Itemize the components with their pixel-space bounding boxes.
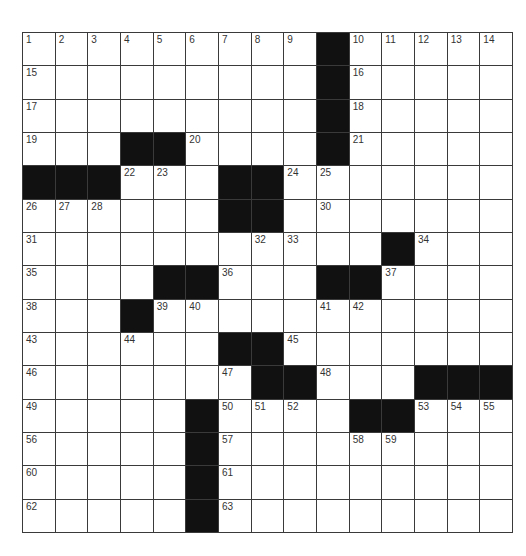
grid-cell[interactable]: 42 [350,300,382,332]
grid-cell[interactable] [56,500,88,532]
grid-cell[interactable]: 55 [480,400,512,432]
grid-cell[interactable] [56,333,88,365]
grid-cell[interactable]: 51 [252,400,284,432]
grid-cell[interactable] [382,200,414,232]
grid-cell[interactable] [219,66,251,98]
grid-cell[interactable] [448,100,480,132]
grid-cell[interactable] [350,366,382,398]
grid-cell[interactable]: 3 [88,33,120,65]
grid-cell[interactable] [56,433,88,465]
grid-cell[interactable] [154,100,186,132]
grid-cell[interactable] [317,466,349,498]
grid-cell[interactable] [154,500,186,532]
grid-cell[interactable] [121,366,153,398]
grid-cell[interactable]: 6 [186,33,218,65]
grid-cell[interactable]: 47 [219,366,251,398]
grid-cell[interactable] [415,200,447,232]
grid-cell[interactable]: 21 [350,133,382,165]
grid-cell[interactable]: 35 [23,266,55,298]
grid-cell[interactable] [154,466,186,498]
grid-cell[interactable] [350,500,382,532]
grid-cell[interactable] [284,100,316,132]
grid-cell[interactable]: 62 [23,500,55,532]
grid-cell[interactable]: 34 [415,233,447,265]
grid-cell[interactable]: 31 [23,233,55,265]
grid-cell[interactable] [480,166,512,198]
grid-cell[interactable] [88,233,120,265]
grid-cell[interactable]: 17 [23,100,55,132]
grid-cell[interactable] [121,100,153,132]
grid-cell[interactable] [382,333,414,365]
grid-cell[interactable] [480,200,512,232]
grid-cell[interactable] [382,66,414,98]
grid-cell[interactable]: 22 [121,166,153,198]
grid-cell[interactable]: 49 [23,400,55,432]
grid-cell[interactable]: 43 [23,333,55,365]
grid-cell[interactable]: 26 [23,200,55,232]
grid-cell[interactable]: 56 [23,433,55,465]
grid-cell[interactable] [382,466,414,498]
grid-cell[interactable] [88,433,120,465]
grid-cell[interactable] [448,66,480,98]
grid-cell[interactable] [88,133,120,165]
grid-cell[interactable]: 12 [415,33,447,65]
grid-cell[interactable] [186,333,218,365]
grid-cell[interactable] [88,300,120,332]
grid-cell[interactable] [415,333,447,365]
grid-cell[interactable] [56,100,88,132]
grid-cell[interactable] [448,433,480,465]
grid-cell[interactable] [219,100,251,132]
grid-cell[interactable] [415,133,447,165]
grid-cell[interactable] [121,400,153,432]
grid-cell[interactable] [154,200,186,232]
grid-cell[interactable] [448,133,480,165]
grid-cell[interactable] [480,266,512,298]
grid-cell[interactable] [350,200,382,232]
grid-cell[interactable] [219,300,251,332]
grid-cell[interactable] [284,433,316,465]
grid-cell[interactable] [448,500,480,532]
grid-cell[interactable] [284,133,316,165]
grid-cell[interactable]: 57 [219,433,251,465]
grid-cell[interactable] [121,66,153,98]
grid-cell[interactable]: 61 [219,466,251,498]
grid-cell[interactable] [480,433,512,465]
grid-cell[interactable] [350,333,382,365]
grid-cell[interactable] [448,466,480,498]
grid-cell[interactable] [448,166,480,198]
grid-cell[interactable] [154,433,186,465]
grid-cell[interactable] [252,133,284,165]
grid-cell[interactable] [480,300,512,332]
grid-cell[interactable]: 58 [350,433,382,465]
grid-cell[interactable]: 10 [350,33,382,65]
grid-cell[interactable]: 14 [480,33,512,65]
grid-cell[interactable]: 20 [186,133,218,165]
grid-cell[interactable] [317,233,349,265]
grid-cell[interactable]: 18 [350,100,382,132]
grid-cell[interactable] [382,166,414,198]
grid-cell[interactable]: 30 [317,200,349,232]
grid-cell[interactable]: 52 [284,400,316,432]
grid-cell[interactable]: 41 [317,300,349,332]
grid-cell[interactable] [480,233,512,265]
grid-cell[interactable] [415,266,447,298]
grid-cell[interactable] [88,100,120,132]
grid-cell[interactable]: 9 [284,33,316,65]
grid-cell[interactable] [480,133,512,165]
grid-cell[interactable] [252,433,284,465]
grid-cell[interactable]: 13 [448,33,480,65]
grid-cell[interactable] [186,200,218,232]
grid-cell[interactable] [121,233,153,265]
grid-cell[interactable] [121,466,153,498]
grid-cell[interactable]: 2 [56,33,88,65]
grid-cell[interactable] [382,100,414,132]
grid-cell[interactable]: 53 [415,400,447,432]
grid-cell[interactable]: 44 [121,333,153,365]
grid-cell[interactable] [284,66,316,98]
grid-cell[interactable] [382,500,414,532]
grid-cell[interactable] [154,366,186,398]
grid-cell[interactable] [415,100,447,132]
grid-cell[interactable] [56,66,88,98]
grid-cell[interactable]: 33 [284,233,316,265]
grid-cell[interactable] [350,233,382,265]
